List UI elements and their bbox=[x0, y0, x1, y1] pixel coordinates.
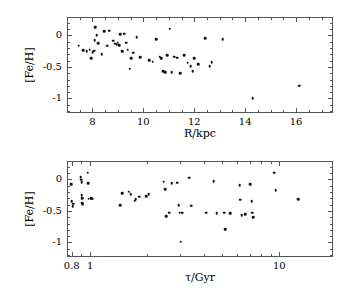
axis-tick bbox=[330, 255, 333, 256]
axis-tick bbox=[67, 17, 68, 20]
axis-tick bbox=[330, 224, 333, 225]
data-point bbox=[215, 212, 218, 215]
data-point bbox=[170, 182, 173, 185]
data-point bbox=[177, 204, 180, 207]
data-point bbox=[90, 57, 93, 60]
axis-tick bbox=[67, 249, 70, 250]
data-point bbox=[165, 215, 168, 218]
axis-tick bbox=[92, 17, 93, 22]
axis-tick bbox=[222, 161, 223, 164]
axis-tick bbox=[330, 42, 333, 43]
axis-tick bbox=[204, 161, 205, 164]
axis-tick bbox=[67, 179, 72, 180]
axis-tick bbox=[330, 105, 333, 106]
data-point bbox=[100, 53, 103, 56]
axis-tick bbox=[67, 167, 70, 168]
xaxis-ticklabel: 8 bbox=[89, 117, 95, 127]
axis-tick bbox=[67, 29, 70, 30]
data-point bbox=[70, 183, 73, 186]
axis-tick bbox=[250, 161, 251, 164]
data-point bbox=[224, 228, 227, 231]
axis-tick bbox=[67, 111, 70, 112]
data-point bbox=[179, 72, 182, 75]
axis-tick bbox=[80, 17, 81, 20]
data-point bbox=[119, 33, 122, 36]
data-point bbox=[106, 44, 109, 47]
data-point bbox=[94, 26, 97, 29]
data-point bbox=[176, 56, 179, 59]
data-point bbox=[164, 188, 167, 191]
data-point bbox=[87, 182, 90, 185]
panel-metallicity-vs-age: 0.81100-0.5-1 τ/Gyr [Fe/H] bbox=[0, 144, 354, 288]
axis-tick bbox=[67, 61, 70, 62]
axis-tick bbox=[330, 249, 333, 250]
axis-tick bbox=[330, 92, 333, 93]
data-point bbox=[148, 193, 151, 196]
axis-tick bbox=[220, 110, 221, 113]
axis-tick bbox=[207, 110, 208, 113]
axis-tick bbox=[279, 252, 280, 257]
plot-frame-top bbox=[67, 17, 333, 113]
axis-tick bbox=[250, 254, 251, 257]
axis-tick bbox=[67, 242, 72, 243]
axis-tick bbox=[322, 17, 323, 20]
axis-tick bbox=[194, 17, 195, 22]
data-point bbox=[298, 84, 301, 87]
axis-tick bbox=[271, 254, 272, 257]
axis-tick bbox=[330, 86, 333, 87]
data-point bbox=[138, 195, 141, 198]
axis-tick bbox=[271, 161, 272, 164]
data-point bbox=[193, 57, 196, 60]
data-point bbox=[126, 48, 129, 51]
axis-tick bbox=[67, 192, 70, 193]
xaxis-ticklabel: 16 bbox=[290, 117, 303, 127]
data-point bbox=[197, 63, 200, 66]
axis-tick bbox=[67, 217, 70, 218]
data-point bbox=[134, 198, 137, 201]
axis-tick bbox=[67, 230, 70, 231]
data-point bbox=[160, 57, 163, 60]
axis-tick bbox=[131, 110, 132, 113]
axis-tick bbox=[118, 110, 119, 113]
axis-tick bbox=[232, 110, 233, 113]
axis-tick bbox=[67, 211, 72, 212]
axis-tick bbox=[237, 161, 238, 164]
xaxis-ticklabel: 12 bbox=[188, 117, 201, 127]
axis-tick bbox=[328, 98, 333, 99]
data-point bbox=[189, 65, 192, 68]
data-point bbox=[213, 180, 216, 183]
axis-tick bbox=[67, 105, 70, 106]
axis-tick bbox=[182, 110, 183, 113]
data-point bbox=[239, 199, 242, 202]
axis-tick bbox=[147, 161, 148, 164]
axis-tick bbox=[67, 205, 70, 206]
axis-tick bbox=[147, 254, 148, 257]
axis-tick bbox=[90, 252, 91, 257]
panel-metallicity-vs-radius: 8101214160-0.5-1 R/kpc [Fe/H] bbox=[0, 0, 354, 144]
data-point bbox=[223, 211, 226, 214]
axis-tick bbox=[67, 198, 70, 199]
data-point bbox=[221, 38, 224, 41]
figure-root: 8101214160-0.5-1 R/kpc [Fe/H] 0.81100-0.… bbox=[0, 0, 354, 288]
axis-tick bbox=[232, 17, 233, 20]
data-point bbox=[121, 50, 124, 53]
axis-tick bbox=[143, 108, 144, 113]
axis-tick bbox=[222, 254, 223, 257]
axis-tick bbox=[328, 242, 333, 243]
axis-tick bbox=[118, 17, 119, 20]
data-point bbox=[91, 197, 94, 200]
data-point bbox=[97, 42, 100, 45]
xaxis-ticklabel: 0.8 bbox=[64, 261, 80, 271]
axis-tick bbox=[81, 161, 82, 164]
scatter-points-age bbox=[68, 162, 332, 256]
axis-tick bbox=[322, 110, 323, 113]
yaxis-ticklabel: 0 bbox=[33, 30, 62, 40]
axis-tick bbox=[67, 173, 70, 174]
axis-tick bbox=[67, 23, 70, 24]
data-point bbox=[95, 34, 98, 37]
data-point bbox=[155, 38, 158, 41]
axis-tick bbox=[330, 80, 333, 81]
axis-tick bbox=[220, 17, 221, 20]
axis-tick bbox=[67, 42, 70, 43]
data-point bbox=[121, 192, 124, 195]
